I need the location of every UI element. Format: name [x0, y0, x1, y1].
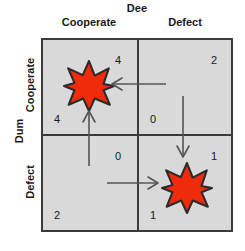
- star-icon: [63, 60, 115, 112]
- column-player-title: Dee: [41, 2, 233, 14]
- payoff-column-player: 4: [115, 54, 121, 66]
- payoff-row-player: 1: [150, 209, 156, 221]
- column-header-cooperate: Cooperate: [41, 16, 137, 28]
- payoff-column-player: 1: [211, 150, 217, 162]
- payoff-row-player: 4: [54, 113, 60, 125]
- cell-defect-cooperate: 0 2: [43, 136, 137, 231]
- star-icon: [161, 162, 213, 214]
- cell-defect-defect: 1 1: [139, 136, 233, 231]
- row-header-cooperate: Cooperate: [24, 37, 36, 133]
- cell-cooperate-defect: 2 0: [139, 40, 233, 135]
- payoff-row-player: 0: [150, 113, 156, 125]
- cell-cooperate-cooperate: 4 4: [43, 40, 137, 135]
- matrix-grid: 4 4 2 0 0 2 1 1: [41, 38, 233, 232]
- payoff-row-player: 2: [54, 209, 60, 221]
- payoff-matrix-diagram: Dee Cooperate Defect Dum Cooperate Defec…: [0, 0, 245, 251]
- row-header-defect: Defect: [24, 134, 36, 230]
- column-header-defect: Defect: [137, 16, 233, 28]
- payoff-column-player: 2: [211, 54, 217, 66]
- payoff-column-player: 0: [115, 150, 121, 162]
